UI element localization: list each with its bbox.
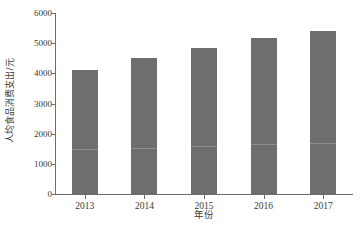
x-axis-tick <box>323 195 324 199</box>
y-axis-tick-label: 2000 <box>18 129 52 139</box>
y-axis-tick-label: 1000 <box>18 159 52 169</box>
bar-seam-line <box>251 144 277 145</box>
plot-area: 20132014201520162017 <box>55 13 353 195</box>
y-axis-line <box>55 13 56 195</box>
y-axis-tick-label: 6000 <box>18 8 52 18</box>
bar[interactable] <box>131 58 157 194</box>
y-axis-tick-label: 0 <box>18 189 52 199</box>
chart-figure: 人均食品消费支出/元 0100020003000400050006000 201… <box>0 0 364 233</box>
bar[interactable] <box>310 31 336 194</box>
x-axis-tick <box>144 195 145 199</box>
y-axis-tick <box>51 104 55 105</box>
bar-seam-line <box>191 146 217 147</box>
y-axis-tick-label: 5000 <box>18 38 52 48</box>
y-axis-tick <box>51 73 55 74</box>
y-axis-tick <box>51 43 55 44</box>
x-axis-tick <box>264 195 265 199</box>
y-axis-tick-label: 3000 <box>18 99 52 109</box>
y-axis-tick <box>51 134 55 135</box>
bar-seam-line <box>310 143 336 144</box>
y-axis-tick <box>51 164 55 165</box>
y-axis-tick <box>51 194 55 195</box>
y-axis-tick-label: 4000 <box>18 68 52 78</box>
bar-seam-line <box>72 149 98 150</box>
x-axis-tick <box>85 195 86 199</box>
x-axis-tick <box>204 195 205 199</box>
y-axis-tick <box>51 13 55 14</box>
y-axis-tick-labels: 0100020003000400050006000 <box>14 0 52 233</box>
bar[interactable] <box>251 38 277 194</box>
x-axis-title: 年份 <box>55 207 353 221</box>
bar[interactable] <box>191 48 217 194</box>
bar-seam-line <box>131 148 157 149</box>
bar[interactable] <box>72 70 98 194</box>
